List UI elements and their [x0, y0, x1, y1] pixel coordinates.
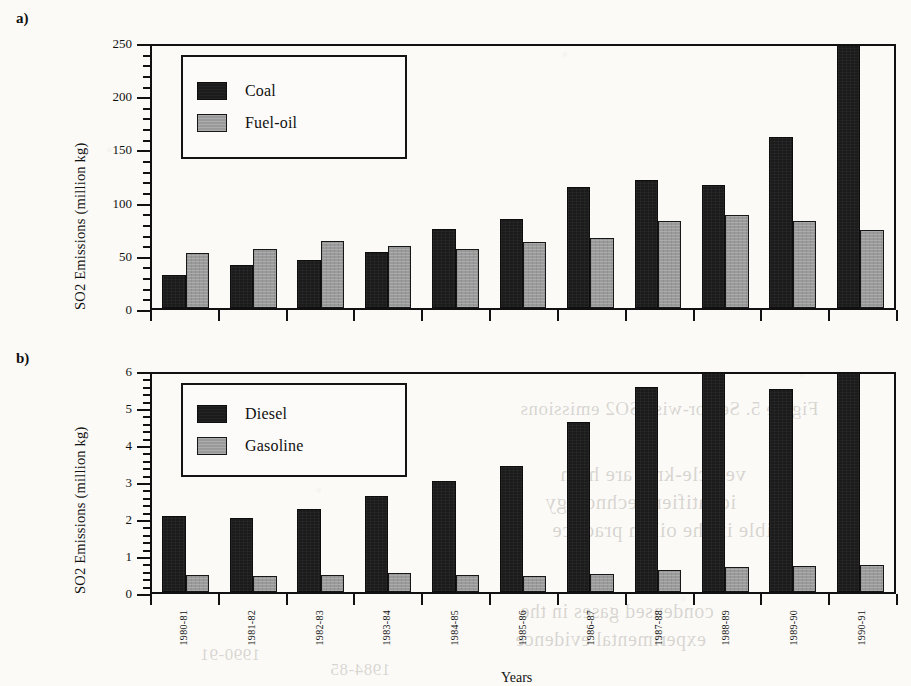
bar-group — [827, 374, 894, 592]
y-tick-minor — [143, 505, 150, 507]
y-tick-minor — [143, 498, 150, 500]
bar-diesel — [432, 481, 455, 592]
y-tick-minor — [143, 513, 150, 515]
y-tick-minor — [143, 387, 150, 389]
bar-diesel — [567, 422, 590, 592]
bar-diesel — [162, 516, 185, 592]
x-tick — [557, 594, 559, 605]
y-tick-minor — [143, 579, 150, 581]
y-axis-title: SO2 Emissions (million kg) — [72, 372, 89, 594]
y-tick-minor — [143, 416, 150, 418]
x-tick — [421, 594, 423, 605]
y-tick-label: 1 — [126, 549, 133, 565]
legend-label: Gasoline — [245, 437, 303, 455]
x-tick — [353, 594, 355, 605]
y-tick-major — [137, 520, 150, 522]
bar-diesel — [365, 496, 388, 592]
y-tick-label: 2 — [126, 512, 133, 528]
bar-gasoline — [388, 573, 411, 592]
bar-gasoline — [725, 567, 748, 592]
y-tick-minor — [143, 527, 150, 529]
x-tick — [218, 594, 220, 605]
y-tick-major — [137, 557, 150, 559]
y-tick-major — [137, 446, 150, 448]
y-tick-minor — [143, 453, 150, 455]
x-tick-label: 1989-90 — [788, 610, 799, 645]
bar-group — [489, 374, 556, 592]
legend-swatch-icon — [197, 405, 227, 423]
y-tick-minor — [143, 550, 150, 552]
legend-swatch-icon — [197, 437, 227, 455]
bar-gasoline — [658, 570, 681, 592]
y-tick-major — [137, 372, 150, 374]
y-tick-label: 4 — [126, 438, 133, 454]
x-tick — [489, 594, 491, 605]
legend-item-diesel: Diesel — [197, 405, 391, 423]
x-tick — [625, 594, 627, 605]
bar-group — [759, 374, 826, 592]
bar-gasoline — [456, 575, 479, 592]
x-tick-label: 1990-91 — [856, 610, 867, 645]
bar-diesel — [702, 374, 725, 592]
x-tick-label: 1986-87 — [585, 610, 596, 645]
bar-diesel — [500, 466, 523, 592]
x-tick-label: 1980-81 — [178, 610, 189, 645]
bar-gasoline — [253, 576, 276, 592]
y-tick-minor — [143, 439, 150, 441]
y-tick-minor — [143, 461, 150, 463]
y-tick-minor — [143, 490, 150, 492]
y-tick-label: 6 — [126, 364, 133, 380]
bar-gasoline — [793, 566, 816, 592]
bar-group — [692, 374, 759, 592]
bar-diesel — [769, 389, 792, 593]
x-tick-label: 1982-83 — [314, 610, 325, 645]
legend-item-gasoline: Gasoline — [197, 437, 391, 455]
y-tick-minor — [143, 564, 150, 566]
bar-gasoline — [321, 575, 344, 592]
x-tick — [150, 594, 152, 605]
bar-gasoline — [186, 575, 209, 592]
y-tick-minor — [143, 587, 150, 589]
y-tick-label: 5 — [126, 401, 133, 417]
y-tick-minor — [143, 476, 150, 478]
bar-group — [624, 374, 691, 592]
x-tick-label: 1983-84 — [381, 610, 392, 645]
bar-diesel — [635, 387, 658, 592]
y-tick-major — [137, 594, 150, 596]
x-tick — [896, 594, 898, 605]
x-tick — [760, 594, 762, 605]
y-tick-minor — [143, 535, 150, 537]
y-tick-major — [137, 409, 150, 411]
x-tick-label: 1981-82 — [246, 610, 257, 645]
y-tick-minor — [143, 431, 150, 433]
bar-diesel — [230, 518, 253, 592]
y-tick-minor — [143, 402, 150, 404]
bar-group — [422, 374, 489, 592]
y-tick-label: 3 — [126, 475, 133, 491]
bar-gasoline — [523, 576, 546, 592]
legend-label: Diesel — [245, 405, 287, 423]
x-tick — [828, 594, 830, 605]
bar-group — [557, 374, 624, 592]
x-tick — [286, 594, 288, 605]
y-tick-minor — [143, 424, 150, 426]
y-axis — [134, 372, 150, 594]
y-tick-label: 0 — [126, 586, 133, 602]
bar-diesel — [837, 374, 860, 592]
y-tick-major — [137, 483, 150, 485]
y-tick-minor — [143, 379, 150, 381]
x-axis-title: Years — [501, 670, 532, 686]
bar-gasoline — [590, 574, 613, 593]
x-tick-label: 1988-89 — [720, 610, 731, 645]
y-tick-minor — [143, 542, 150, 544]
x-tick — [693, 594, 695, 605]
y-tick-minor — [143, 468, 150, 470]
x-tick-label: 1985-86 — [517, 610, 528, 645]
bar-diesel — [297, 509, 320, 592]
chart-legend: DieselGasoline — [181, 383, 407, 477]
bar-gasoline — [860, 565, 883, 592]
y-tick-minor — [143, 394, 150, 396]
x-axis-ticks — [150, 594, 896, 606]
x-tick-label: 1987-88 — [653, 610, 664, 645]
